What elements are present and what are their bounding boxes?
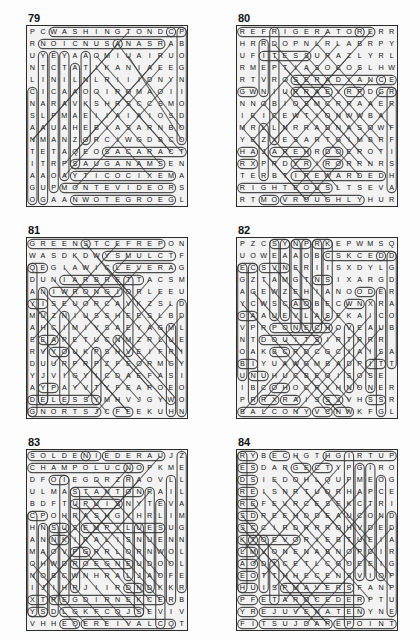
- grid-cell: E: [59, 618, 70, 630]
- grid-cell: B: [365, 110, 376, 122]
- grid-cell: U: [38, 310, 49, 322]
- grid-cell: U: [38, 182, 49, 194]
- grid-cell: S: [376, 394, 387, 406]
- grid-cell: T: [59, 498, 70, 510]
- grid-cell: N: [38, 286, 49, 298]
- grid-cell: G: [38, 194, 49, 206]
- grid-cell: R: [333, 334, 344, 346]
- grid-cell: Y: [27, 370, 38, 382]
- grid-cell: H: [102, 98, 113, 110]
- grid-cell: M: [38, 134, 49, 146]
- grid-cell: W: [166, 394, 177, 406]
- grid-cell: T: [301, 334, 312, 346]
- grid-cell: E: [258, 62, 269, 74]
- grid-cell: G: [333, 558, 344, 570]
- grid-cell: T: [344, 334, 355, 346]
- grid-cell: E: [134, 310, 145, 322]
- grid-cell: V: [38, 346, 49, 358]
- grid-cell: V: [155, 474, 166, 486]
- grid-cell: H: [333, 382, 344, 394]
- grid-cell: V: [258, 546, 269, 558]
- grid-cell: C: [123, 146, 134, 158]
- puzzle-grid-81[interactable]: GREENSTCEFREPONWASDKDWYSMULCTFQEGIAWICLE…: [26, 237, 188, 419]
- grid-cell: S: [80, 238, 91, 250]
- grid-cell: G: [376, 86, 387, 98]
- puzzle-grid-83[interactable]: SOLDENIEDERAUJZCHAMPOLUCNOPKMEDFOIEGDRZR…: [26, 449, 188, 631]
- grid-cell: F: [176, 250, 187, 262]
- puzzle-grid-84[interactable]: RYBECHGTHGIRTUPESDARGECTYPGIRODSIEDOHLQU…: [236, 449, 398, 631]
- grid-cell: T: [376, 146, 387, 158]
- grid-cell: U: [344, 510, 355, 522]
- grid-cell: Y: [123, 510, 134, 522]
- grid-cell: B: [155, 134, 166, 146]
- grid-cell: S: [27, 110, 38, 122]
- grid-cell: M: [59, 182, 70, 194]
- grid-cell: N: [80, 74, 91, 86]
- puzzle-grid-82[interactable]: PZCSYNPRKEPWMSQUOWEAAOBCSKCEDDECSVNERIIS…: [236, 237, 398, 419]
- grid-cell: E: [38, 146, 49, 158]
- grid-cell: L: [155, 310, 166, 322]
- grid-cell: O: [365, 122, 376, 134]
- grid-cell: I: [91, 370, 102, 382]
- grid-cell: M: [354, 474, 365, 486]
- grid-cell: I: [70, 310, 81, 322]
- grid-cell: P: [248, 322, 259, 334]
- grid-cell: E: [365, 534, 376, 546]
- grid-cell: T: [386, 358, 397, 370]
- grid-cell: P: [48, 110, 59, 122]
- grid-cell: O: [376, 474, 387, 486]
- grid-cell: N: [312, 274, 323, 286]
- grid-cell: E: [365, 170, 376, 182]
- grid-cell: C: [269, 110, 280, 122]
- grid-cell: I: [237, 110, 248, 122]
- grid-cell: I: [248, 358, 259, 370]
- grid-cell: W: [354, 238, 365, 250]
- grid-cell: T: [333, 606, 344, 618]
- grid-cell: I: [70, 534, 81, 546]
- grid-cell: U: [248, 582, 259, 594]
- grid-cell: C: [322, 558, 333, 570]
- grid-cell: P: [365, 486, 376, 498]
- grid-cell: I: [312, 158, 323, 170]
- grid-cell: D: [269, 38, 280, 50]
- puzzle-grid-79[interactable]: PCWASHINGTONDCPRNOICNUSANASRABUYEYAAOMIU…: [26, 25, 188, 207]
- grid-cell: A: [312, 310, 323, 322]
- grid-cell: N: [376, 606, 387, 618]
- grid-cell: H: [48, 618, 59, 630]
- grid-cell: R: [365, 38, 376, 50]
- grid-cell: G: [301, 450, 312, 462]
- grid-cell: C: [376, 486, 387, 498]
- grid-cell: T: [91, 238, 102, 250]
- grid-cell: D: [112, 450, 123, 462]
- grid-cell: E: [80, 122, 91, 134]
- grid-cell: I: [365, 618, 376, 630]
- grid-cell: E: [269, 250, 280, 262]
- grid-cell: O: [354, 286, 365, 298]
- grid-cell: J: [134, 570, 145, 582]
- grid-cell: O: [80, 286, 91, 298]
- grid-cell: A: [312, 86, 323, 98]
- grid-cell: I: [91, 262, 102, 274]
- grid-cell: N: [280, 122, 291, 134]
- grid-cell: I: [123, 110, 134, 122]
- grid-cell: A: [280, 250, 291, 262]
- grid-cell: H: [301, 286, 312, 298]
- grid-cell: D: [112, 370, 123, 382]
- grid-cell: U: [70, 298, 81, 310]
- grid-cell: F: [166, 570, 177, 582]
- grid-cell: I: [166, 510, 177, 522]
- grid-cell: H: [166, 406, 177, 418]
- grid-cell: I: [176, 86, 187, 98]
- grid-cell: I: [59, 262, 70, 274]
- grid-cell: O: [155, 182, 166, 194]
- grid-cell: P: [344, 618, 355, 630]
- grid-cell: O: [376, 570, 387, 582]
- puzzle-grid-80[interactable]: REFRIGERATORERRHRRDOPNLRLABRPYUFITESSURA…: [236, 25, 398, 207]
- grid-cell: A: [91, 486, 102, 498]
- grid-cell: H: [237, 582, 248, 594]
- grid-cell: E: [70, 450, 81, 462]
- grid-cell: O: [322, 486, 333, 498]
- grid-cell: O: [166, 238, 177, 250]
- grid-cell: O: [155, 110, 166, 122]
- grid-cell: R: [248, 38, 259, 50]
